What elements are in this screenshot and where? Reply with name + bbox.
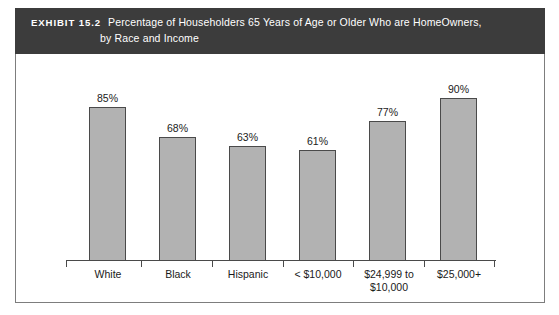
- exhibit-figure: EXHIBIT 15.2Percentage of Householders 6…: [0, 0, 559, 315]
- chart-frame: [15, 54, 545, 303]
- exhibit-number-label: EXHIBIT 15.2: [31, 17, 101, 28]
- exhibit-title-line-2: by Race and Income: [31, 31, 533, 47]
- exhibit-header: EXHIBIT 15.2Percentage of Householders 6…: [15, 8, 545, 54]
- exhibit-title-line-1: EXHIBIT 15.2Percentage of Householders 6…: [31, 15, 533, 31]
- exhibit-title-text-1: Percentage of Householders 65 Years of A…: [108, 16, 482, 28]
